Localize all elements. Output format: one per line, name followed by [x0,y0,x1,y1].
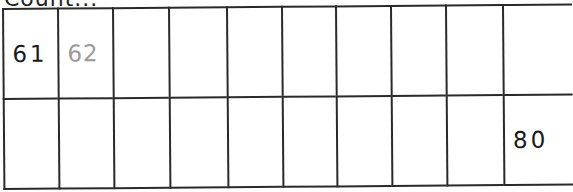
grid-cell [168,6,227,96]
grid-cell [282,95,337,187]
grid-cell [336,95,392,187]
grid-cell: 62 [57,7,113,97]
grid-cell [391,95,447,187]
cell-value: 80 [513,127,548,153]
grid-cell [390,5,446,95]
grid-cell: 80 [503,94,573,187]
grid-cell [335,5,391,95]
grid-cell [446,94,504,186]
grid-cell [502,4,573,95]
grid-cell [3,98,59,190]
cell-value: 61 [12,41,47,67]
grid-cell [58,97,114,189]
grid-cell [169,96,228,188]
grid-cell [445,4,503,94]
grid-cell [227,96,283,188]
grid-row-1: 61 62 [2,4,573,98]
cell-value-hint: 62 [67,40,98,66]
grid-cell [281,5,336,95]
grid-cell [112,7,169,97]
grid-cell [226,6,282,96]
grid-row-2: 80 [3,94,573,188]
grid-cell: 61 [2,8,58,98]
grid-cell [113,97,170,189]
number-grid: 61 62 80 [2,4,573,190]
